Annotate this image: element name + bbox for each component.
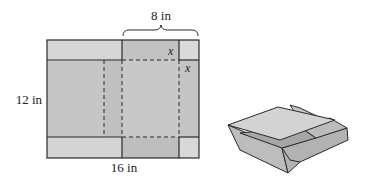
bottom-center-flap: [122, 137, 179, 158]
bottom-right-corner: [179, 137, 199, 158]
width-label: 16 in: [111, 160, 138, 175]
base-panel: [122, 60, 179, 137]
top-right-corner: [179, 40, 199, 60]
bottom-left-flap: [47, 137, 122, 158]
corner-label-top: x: [167, 44, 174, 58]
height-label: 12 in: [16, 92, 43, 107]
left-panel: [47, 60, 104, 137]
folded-box: [228, 105, 348, 173]
top-left-flap: [47, 40, 122, 60]
left-fold-strip: [104, 60, 122, 137]
box-net-diagram: x x 8 in 12 in 16 in: [0, 0, 365, 184]
top-brace: [123, 25, 198, 36]
flat-net: x x 8 in 12 in 16 in: [16, 8, 199, 175]
top-brace-label: 8 in: [151, 8, 171, 23]
corner-label-side: x: [184, 61, 191, 75]
